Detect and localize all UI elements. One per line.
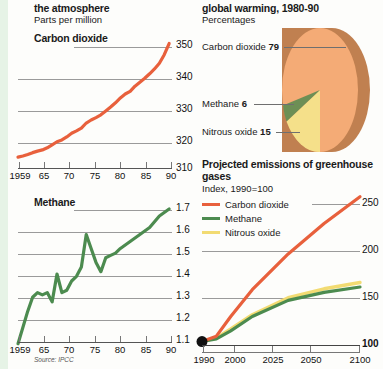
left-subheading: Parts per million xyxy=(34,14,102,25)
methane-xtick-0 xyxy=(19,336,20,342)
pie-callout-methane: Methane 6 xyxy=(202,98,247,109)
proj-ylabel-250: 250 xyxy=(362,197,379,208)
proj-ylabel-200: 200 xyxy=(362,244,379,255)
proj-xtick-2000 xyxy=(234,346,235,352)
co2-ylabel-340: 340 xyxy=(176,71,193,82)
methane-chart: Methane 1.7 1.6 1.5 1.4 1.3 1.2 1.1 xyxy=(8,196,194,361)
methane-ylabel-1-7: 1.7 xyxy=(176,202,190,213)
methane-xtick-6 xyxy=(171,336,172,342)
proj-xlabel-2050: 2050 xyxy=(295,354,327,365)
methane-xtick-5 xyxy=(146,336,147,342)
co2-ylabel-320: 320 xyxy=(176,135,193,146)
pie-leader-nitrous-oxide xyxy=(276,132,300,133)
pie-leader-carbon-dioxide xyxy=(284,47,346,48)
right-subheading: Percentages xyxy=(202,14,255,25)
methane-xlabel-90: 90 xyxy=(161,344,181,355)
pie-callout-carbon-dioxide-value: 79 xyxy=(269,41,280,52)
left-heading: the atmosphere xyxy=(34,2,109,14)
co2-x-axis xyxy=(18,168,172,169)
methane-xlabel-75: 75 xyxy=(85,344,105,355)
methane-ylabel-1-6: 1.6 xyxy=(176,224,190,235)
proj-baseline-100 xyxy=(202,345,360,346)
pie-callout-methane-name: Methane xyxy=(202,98,239,109)
methane-ylabel-1-5: 1.5 xyxy=(176,246,190,257)
pie-callout-nitrous-oxide: Nitrous oxide 15 xyxy=(202,126,271,137)
co2-xlabel-1959: 1959 xyxy=(8,170,32,181)
co2-xtick-1 xyxy=(44,162,45,168)
methane-xtick-4 xyxy=(120,336,121,342)
right-column: global warming, 1980-90 Percentages Carb… xyxy=(196,0,383,369)
co2-xlabel-75: 75 xyxy=(85,170,105,181)
proj-xtick-1990 xyxy=(203,346,204,352)
methane-ylabel-1-4: 1.4 xyxy=(176,268,190,279)
projection-line-series xyxy=(202,194,360,346)
proj-ylabel-100: 100 xyxy=(362,338,379,349)
pie-callout-methane-value: 6 xyxy=(242,98,247,109)
co2-xtick-0 xyxy=(19,162,20,168)
pie-callout-nitrous-oxide-name: Nitrous oxide xyxy=(202,126,257,137)
co2-xlabel-80: 80 xyxy=(110,170,130,181)
co2-xtick-2 xyxy=(69,162,70,168)
proj-xlabel-1990: 1990 xyxy=(188,354,220,365)
methane-xlabel-1959: 1959 xyxy=(8,344,32,355)
source-note: Source: IPCC xyxy=(34,356,74,363)
co2-xtick-4 xyxy=(120,162,121,168)
co2-xtick-6 xyxy=(171,162,172,168)
projection-title-line2: gases xyxy=(202,170,231,182)
left-column: the atmosphere Parts per million Carbon … xyxy=(8,0,194,369)
global-warming-pie-chart: Carbon dioxide 79 Methane 6 Nitrous oxid… xyxy=(196,26,383,154)
methane-ylabel-1-3: 1.3 xyxy=(176,290,190,301)
right-heading: global warming, 1980-90 xyxy=(202,2,319,14)
proj-ylabel-150: 150 xyxy=(362,291,379,302)
pie-leader-methane xyxy=(254,104,294,105)
infographic-page: the atmosphere Parts per million Carbon … xyxy=(0,0,383,369)
pie-3d-graphic xyxy=(272,26,382,154)
methane-xlabel-80: 80 xyxy=(110,344,130,355)
co2-xlabel-90: 90 xyxy=(161,170,181,181)
methane-xtick-2 xyxy=(69,336,70,342)
co2-xlabel-65: 65 xyxy=(34,170,54,181)
pie-callout-nitrous-oxide-value: 15 xyxy=(260,126,271,137)
methane-ylabel-1-2: 1.2 xyxy=(176,312,190,323)
co2-xlabel-70: 70 xyxy=(59,170,79,181)
proj-xlabel-2025: 2025 xyxy=(257,354,289,365)
co2-line-series xyxy=(18,39,174,175)
proj-x-axis xyxy=(202,352,360,353)
co2-xtick-5 xyxy=(146,162,147,168)
proj-xtick-2050 xyxy=(310,346,311,352)
pie-callout-carbon-dioxide-name: Carbon dioxide xyxy=(202,41,266,52)
co2-ylabel-330: 330 xyxy=(176,103,193,114)
co2-ylabel-350: 350 xyxy=(176,39,193,50)
methane-xtick-1 xyxy=(44,336,45,342)
projection-subtitle: Index, 1990=100 xyxy=(202,183,273,194)
methane-xlabel-85: 85 xyxy=(136,344,156,355)
co2-xtick-3 xyxy=(95,162,96,168)
proj-xtick-2100 xyxy=(359,346,360,352)
projection-title-line1: Projected emissions of greenhouse xyxy=(202,158,373,170)
proj-xlabel-2000: 2000 xyxy=(219,354,251,365)
methane-x-axis xyxy=(18,342,172,343)
projected-emissions-chart: Projected emissions of greenhouse gases … xyxy=(196,158,383,369)
methane-line-series xyxy=(18,202,174,346)
co2-xlabel-85: 85 xyxy=(136,170,156,181)
methane-xlabel-65: 65 xyxy=(34,344,54,355)
proj-xtick-2025 xyxy=(272,346,273,352)
pie-callout-carbon-dioxide: Carbon dioxide 79 xyxy=(202,41,279,52)
proj-xlabel-2100: 2100 xyxy=(344,354,376,365)
left-accent-strip xyxy=(0,0,8,369)
co2-chart: Carbon dioxide 350 340 330 320 310 xyxy=(8,32,194,184)
methane-xtick-3 xyxy=(95,336,96,342)
methane-xlabel-70: 70 xyxy=(59,344,79,355)
